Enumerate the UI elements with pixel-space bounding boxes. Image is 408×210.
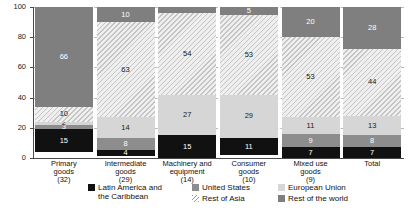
legend-item-eu[interactable]: European Union [278, 183, 388, 192]
bar-segment-lac[interactable]: 7 [343, 147, 401, 158]
bar-segment-eu[interactable]: 11 [282, 117, 340, 134]
legend-item-asia[interactable]: Rest of Asia [192, 194, 276, 203]
bar-segment-value: 11 [245, 143, 253, 151]
bar-segment-row[interactable]: 10 [97, 7, 155, 22]
x-axis-line [33, 158, 404, 159]
bar-segment-row[interactable]: 20 [282, 7, 340, 37]
bar-segment-lac[interactable]: 7 [282, 147, 340, 158]
bar-segment-row[interactable]: 28 [343, 7, 401, 49]
y-axis-tick-label: 60 [2, 63, 26, 71]
bar-segment-value: 28 [368, 24, 376, 32]
legend-label-line2: the Caribbean [98, 192, 162, 201]
legend-swatch-eu-icon [278, 184, 285, 191]
bar-segment-lac[interactable]: 4 [97, 150, 155, 156]
bar-segment-value: 5 [247, 7, 251, 15]
bar-segment-eu[interactable]: 29 [220, 95, 278, 139]
bar-segment-value: 15 [60, 137, 68, 145]
legend-label: Latin America andthe Caribbean [98, 183, 162, 201]
bar-segment-row[interactable]: 5 [220, 7, 278, 15]
bar-segment-value: 8 [123, 140, 127, 148]
bar-segment-asia[interactable]: 63 [97, 22, 155, 117]
bar-segment-asia[interactable]: 53 [220, 15, 278, 95]
bar-segment-value: 9 [308, 137, 312, 145]
bar-segment-lac[interactable]: 15 [158, 135, 216, 158]
bar-segment-value: 10 [121, 11, 129, 19]
legend-item-lac[interactable]: Latin America andthe Caribbean [88, 183, 184, 201]
y-axis-tick-label: 100 [2, 3, 26, 11]
plot-area: 6610231510631484542715553291120531197284… [33, 7, 403, 158]
bar-segment-value: 66 [60, 53, 68, 61]
bar-segment-value: 44 [368, 78, 376, 86]
bar-segment-value: 53 [306, 73, 314, 81]
y-axis-tick-mark [30, 158, 33, 159]
legend-label: Rest of Asia [202, 194, 245, 203]
bar-segment-row[interactable]: 66 [35, 7, 93, 107]
stacked-bar-chart: 020406080100 661023151063148454271555329… [0, 0, 408, 210]
bar-segment-value: 54 [183, 50, 191, 58]
bar-segment-value: 10 [60, 110, 68, 118]
y-axis-tick-label: 0 [2, 154, 26, 162]
legend-column-2: United StatesRest of Asia [192, 183, 276, 205]
bar-segment-value: 27 [183, 111, 191, 119]
legend-swatch-lac-icon [88, 184, 95, 191]
bar-segment-value: 11 [307, 122, 315, 130]
legend-swatch-asia-icon [192, 195, 199, 202]
category-label-line: Total [335, 160, 408, 168]
legend-column-3: European UnionRest of the world [278, 183, 388, 205]
bar-segment-asia[interactable]: 44 [343, 49, 401, 115]
bar-segment-value: 13 [368, 122, 376, 130]
legend-label: United States [202, 183, 250, 192]
bar-segment-value: 63 [121, 66, 129, 74]
bar-segment-lac[interactable]: 11 [220, 138, 278, 155]
y-axis-tick-label: 20 [2, 124, 26, 132]
bar-mixed-use-goods[interactable]: 20531197 [282, 7, 340, 158]
bar-primary-goods[interactable]: 66102315 [35, 7, 93, 158]
bar-segment-value: 7 [370, 149, 374, 157]
bar-segment-value: 53 [245, 51, 253, 59]
y-axis-tick-label: 80 [2, 33, 26, 41]
bar-segment-usa[interactable]: 9 [282, 134, 340, 148]
bar-segment-value: 29 [245, 112, 253, 120]
bar-segment-eu[interactable]: 13 [343, 116, 401, 136]
bar-segment-value: 7 [308, 149, 312, 157]
bar-segment-value: 4 [123, 150, 127, 156]
legend-label: European Union [288, 183, 346, 192]
legend-swatch-usa-icon [192, 184, 199, 191]
bar-segment-eu[interactable]: 27 [158, 95, 216, 136]
legend-column-1: Latin America andthe Caribbean [88, 183, 184, 203]
legend-label: Rest of the world [288, 194, 348, 203]
bar-segment-lac[interactable]: 15 [35, 129, 93, 152]
legend-item-usa[interactable]: United States [192, 183, 276, 192]
bar-segment-value: 14 [121, 124, 129, 132]
bar-segment-value: 20 [306, 18, 314, 26]
legend-swatch-row-icon [278, 195, 285, 202]
chart-legend: Latin America andthe Caribbean United St… [88, 183, 388, 209]
bar-segment-usa[interactable]: 8 [97, 138, 155, 150]
bar-segment-usa[interactable]: 8 [343, 135, 401, 147]
bar-consumer-goods[interactable]: 5532911 [220, 7, 278, 158]
bar-machinery-and-equipment[interactable]: 542715 [158, 7, 216, 158]
bar-segment-asia[interactable]: 10 [35, 107, 93, 122]
bar-intermediate-goods[interactable]: 10631484 [97, 7, 155, 158]
bar-segment-asia[interactable]: 53 [282, 37, 340, 117]
bar-segment-eu[interactable]: 14 [97, 117, 155, 138]
bar-total[interactable]: 28441387 [343, 7, 401, 158]
bar-segment-asia[interactable]: 54 [158, 13, 216, 95]
category-label-total: Total [335, 160, 408, 168]
bar-segment-value: 8 [370, 137, 374, 145]
bar-segment-value: 15 [183, 143, 191, 151]
legend-item-row[interactable]: Rest of the world [278, 194, 388, 203]
y-axis-tick-label: 40 [2, 94, 26, 102]
